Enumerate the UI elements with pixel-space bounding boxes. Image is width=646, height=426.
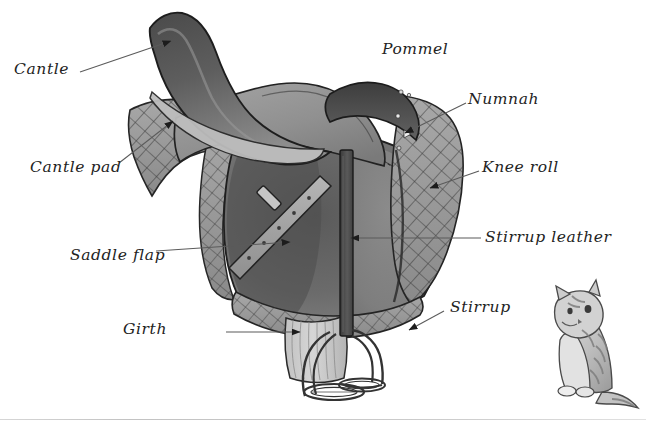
- label-knee-roll: Knee roll: [482, 160, 559, 176]
- label-numnah: Numnah: [468, 92, 539, 108]
- label-cantle-pad: Cantle pad: [30, 160, 121, 176]
- figure-canvas: Cantle Cantle pad Pommel Numnah Knee rol…: [0, 0, 646, 426]
- label-cantle: Cantle: [14, 62, 69, 78]
- label-pommel: Pommel: [382, 42, 448, 58]
- saddle-group: [120, 13, 475, 400]
- stirrup-leather-part: [340, 150, 353, 336]
- label-stirrup: Stirrup: [450, 300, 511, 316]
- bottom-divider: [0, 419, 646, 420]
- saddle-illustration: [0, 0, 646, 426]
- label-girth: Girth: [123, 322, 167, 338]
- label-stirrup-leather: Stirrup leather: [485, 230, 612, 246]
- girth-part: [285, 316, 347, 383]
- cat-illustration: [555, 280, 638, 408]
- label-saddle-flap: Saddle flap: [70, 248, 165, 264]
